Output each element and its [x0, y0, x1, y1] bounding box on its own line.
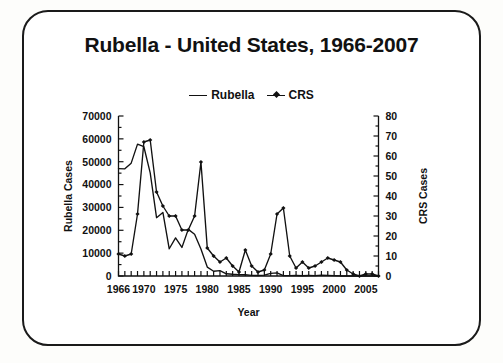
series-marker-crs	[357, 274, 361, 278]
series-marker-crs	[135, 212, 139, 216]
series-marker-crs	[186, 228, 190, 232]
series-marker-crs	[269, 252, 273, 256]
figure-root: Rubella - United States, 1966-2007 Rubel…	[0, 0, 503, 363]
y2-axis-tick-label: 60	[386, 150, 398, 162]
series-marker-crs	[332, 258, 336, 262]
y2-axis-tick-label: 20	[386, 230, 398, 242]
x-axis-tick-label: 2000	[322, 283, 346, 295]
plot-area: 0100002000030000400005000060000700000102…	[0, 0, 503, 363]
series-marker-crs	[148, 138, 152, 142]
series-marker-crs	[376, 274, 380, 278]
series-marker-crs	[129, 252, 133, 256]
x-axis-tick-label: 1975	[164, 283, 188, 295]
y2-axis-tick-label: 30	[386, 210, 398, 222]
y-axis-tick-label: 30000	[82, 201, 111, 213]
series-marker-crs	[173, 214, 177, 218]
x-axis-tick-label: 1970	[132, 283, 156, 295]
y-axis-tick-label: 60000	[82, 133, 111, 145]
series-line-crs	[119, 140, 379, 276]
series-marker-crs	[180, 228, 184, 232]
y2-axis-tick-label: 80	[386, 110, 398, 122]
y2-axis-tick-label: 0	[386, 270, 392, 282]
axis-spines	[119, 116, 379, 276]
y-axis-tick-label: 10000	[82, 247, 111, 259]
series-marker-crs	[142, 140, 146, 144]
series-marker-crs	[243, 248, 247, 252]
series-layer	[116, 138, 380, 278]
series-marker-crs	[154, 190, 158, 194]
series-marker-crs	[262, 268, 266, 272]
x-axis-title: Year	[237, 306, 259, 318]
x-axis-tick-label: 1985	[227, 283, 251, 295]
axis-layer	[119, 116, 379, 276]
x-axis-tick-label: 1990	[259, 283, 283, 295]
x-axis-tick-label: 1966	[107, 283, 131, 295]
y2-axis-tick-label: 10	[386, 250, 398, 262]
y-axis-tick-label: 20000	[82, 224, 111, 236]
series-marker-crs	[199, 160, 203, 164]
y2-axis-tick-label: 40	[386, 190, 398, 202]
y-axis-title: Rubella Cases	[62, 160, 74, 232]
y2-axis-tick-label: 70	[386, 130, 398, 142]
y-axis-tick-label: 0	[106, 270, 112, 282]
series-marker-crs	[116, 252, 120, 256]
y2-axis-title: CRS Cases	[417, 168, 429, 224]
series-marker-crs	[123, 254, 127, 258]
y2-axis-tick-label: 50	[386, 170, 398, 182]
x-axis-tick-label: 1980	[196, 283, 220, 295]
x-axis-tick-label: 1995	[291, 283, 315, 295]
y-axis-tick-label: 70000	[82, 110, 111, 122]
y-axis-tick-label: 50000	[82, 156, 111, 168]
axis-label-layer: 0100002000030000400005000060000700000102…	[62, 110, 429, 318]
series-marker-crs	[192, 214, 196, 218]
x-axis-tick-label: 2005	[354, 283, 378, 295]
y-axis-tick-label: 40000	[82, 178, 111, 190]
